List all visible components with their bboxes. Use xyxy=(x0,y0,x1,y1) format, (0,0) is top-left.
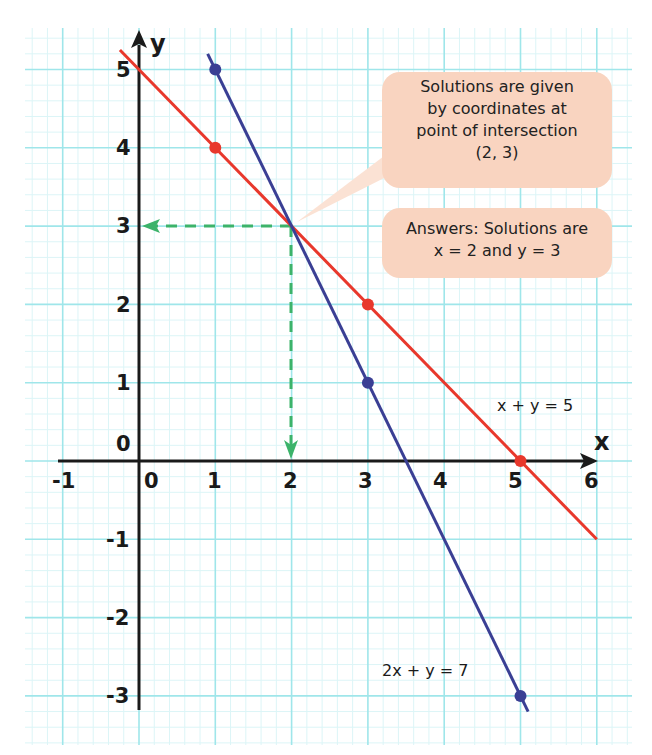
callout-line: by coordinates at xyxy=(382,98,612,120)
data-point-marker xyxy=(362,377,374,389)
data-point-marker xyxy=(209,64,221,76)
x-tick: 3 xyxy=(358,469,373,493)
x-tick: 5 xyxy=(508,469,523,493)
y-tick: 1 xyxy=(116,371,131,395)
y-tick: 5 xyxy=(116,58,131,82)
data-point-marker xyxy=(515,690,527,702)
callout-line: Answers: Solutions are xyxy=(382,218,612,240)
y-axis-label: y xyxy=(150,30,166,58)
data-point-marker xyxy=(362,298,374,310)
y-tick: 3 xyxy=(116,214,131,238)
callout-line: x = 2 and y = 3 xyxy=(382,240,612,262)
x-tick: -1 xyxy=(52,469,75,493)
equation-label-red: x + y = 5 xyxy=(497,396,573,415)
x-tick: 4 xyxy=(433,469,448,493)
y-tick: -3 xyxy=(106,684,129,708)
x-axis-label: x xyxy=(594,428,610,456)
callout-line: point of intersection xyxy=(382,120,612,142)
y-tick: 4 xyxy=(116,136,131,160)
y-tick: -2 xyxy=(106,606,129,630)
y-tick: 0 xyxy=(116,432,131,456)
x-tick-labels: -1 0 1 2 3 4 5 6 xyxy=(52,469,599,493)
callout-line: (2, 3) xyxy=(382,142,612,164)
x-tick: 2 xyxy=(283,469,298,493)
callout-line: Solutions are given xyxy=(382,76,612,98)
callout-answer: Answers: Solutions are x = 2 and y = 3 xyxy=(382,208,612,278)
y-tick: 2 xyxy=(116,293,131,317)
x-tick: 0 xyxy=(144,469,159,493)
x-tick: 1 xyxy=(207,469,222,493)
y-tick: -1 xyxy=(106,528,129,552)
x-tick: 6 xyxy=(584,469,599,493)
equation-label-blue: 2x + y = 7 xyxy=(382,661,468,680)
callout-intersection-note: Solutions are given by coordinates at po… xyxy=(382,72,612,188)
data-point-marker xyxy=(515,455,527,467)
data-point-marker xyxy=(209,142,221,154)
